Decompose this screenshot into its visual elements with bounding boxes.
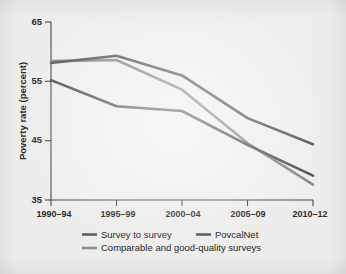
x-tick-label-3: 2005–09 bbox=[230, 209, 265, 219]
y-axis-ticks bbox=[45, 22, 51, 200]
x-axis-ticks bbox=[51, 200, 313, 206]
y-tick-label-45: 45 bbox=[31, 134, 42, 145]
x-tick-label-0: 1990–94 bbox=[36, 209, 71, 219]
x-tick-label-1: 1995–99 bbox=[100, 209, 135, 219]
chart-legend: Survey to survey PovcalNet Comparable an… bbox=[82, 229, 261, 254]
legend-label-survey-to-survey: Survey to survey bbox=[101, 229, 172, 240]
legend-label-comparable-and-good-quality-surveys: Comparable and good-quality surveys bbox=[101, 242, 261, 253]
y-tick-label-65: 65 bbox=[31, 16, 42, 27]
poverty-rate-line-chart: 65 55 45 35 1990–94 1995–99 2000–04 2005… bbox=[0, 0, 346, 274]
legend-label-povcalnet: PovcalNet bbox=[215, 229, 259, 240]
x-tick-label-2: 2000–04 bbox=[165, 209, 200, 219]
y-tick-label-55: 55 bbox=[31, 75, 42, 86]
y-tick-label-35: 35 bbox=[31, 194, 42, 205]
x-tick-label-4: 2010–12 bbox=[292, 209, 327, 219]
y-axis-title: Poverty rate (percent) bbox=[17, 62, 28, 160]
figure-container: 65 55 45 35 1990–94 1995–99 2000–04 2005… bbox=[0, 0, 346, 274]
